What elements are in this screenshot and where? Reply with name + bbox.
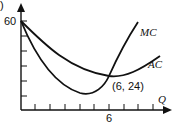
x-tick-label-6: 6 <box>106 112 112 123</box>
x-axis-arrow-icon <box>163 106 172 114</box>
intersection-label: (6, 24) <box>112 80 144 92</box>
mc-label: MC <box>139 26 157 38</box>
y-axis-arrow-icon <box>17 3 25 12</box>
panel-mark: ) <box>0 0 4 11</box>
y-tick-label-60: 60 <box>4 15 16 27</box>
x-axis-label: Q <box>158 93 166 105</box>
cost-curves-diagram: ) 60 6 Q MC AC (6, 24) <box>0 0 174 123</box>
ac-label: AC <box>147 58 163 70</box>
x-ticks <box>35 104 153 110</box>
